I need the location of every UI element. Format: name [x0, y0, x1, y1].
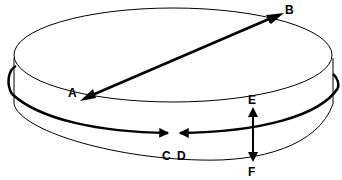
cylinder-body [14, 8, 333, 160]
arrowhead-E-icon [248, 107, 258, 117]
top-face [14, 8, 332, 102]
label-B: B [285, 3, 294, 17]
label-A: A [68, 86, 77, 100]
circumference-back-right [333, 74, 338, 88]
label-F: F [248, 165, 255, 179]
circumference-back-left [9, 66, 16, 94]
thickness-arrow [248, 107, 258, 162]
label-D: D [177, 149, 186, 163]
label-C: C [162, 149, 171, 163]
disc-diagram: A B C D E F [0, 0, 342, 180]
label-E: E [248, 93, 256, 107]
